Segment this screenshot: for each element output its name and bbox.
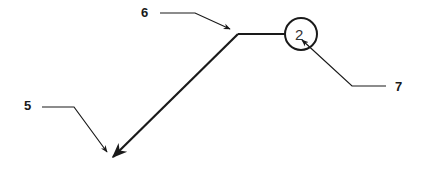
numbered-circle: 2 [285,18,317,50]
callout-5: 5 [24,98,107,152]
lead-line-diagonal-segment [113,34,238,157]
callout-7-leader [302,40,386,86]
callout-5-leader [42,107,107,152]
callout-6-leader [160,13,230,29]
callout-label-5: 5 [24,98,31,113]
bent-lead-line [113,34,285,157]
callout-label-6: 6 [141,5,148,20]
callout-7: 7 [302,40,402,94]
callout-diagram: 2 6 5 7 [0,0,426,171]
callout-label-7: 7 [395,79,402,94]
callout-6: 6 [141,5,230,29]
